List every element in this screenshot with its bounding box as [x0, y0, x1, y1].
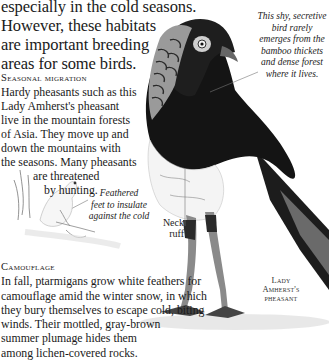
intro-line: especially in the cold seasons. — [1, 0, 191, 16]
body-line: among lichen-covered rocks. — [1, 346, 206, 360]
label-line: Neck — [152, 217, 184, 228]
body-line: are threatened — [1, 169, 166, 183]
caption-feathered-feet: Feathered feet to insulate against the c… — [86, 188, 152, 223]
body-line: summer plumage hides them — [1, 331, 206, 345]
body-line: In fall, ptarmigans grow white feathers … — [1, 274, 206, 288]
body-line: the seasons. Many pheasants — [1, 155, 166, 169]
caption-line: emerges from the — [252, 34, 329, 46]
label-line: pheasant — [254, 294, 308, 303]
caption-line: against the cold — [86, 211, 152, 223]
caption-line: Feathered — [86, 188, 152, 200]
caption-line: feet to insulate — [86, 200, 152, 212]
body-line: live in the mountain forests — [1, 113, 166, 127]
intro-paragraph: especially in the cold seasons. However,… — [1, 0, 191, 73]
camouflage-section: Camouflage In fall, ptarmigans grow whit… — [1, 260, 206, 360]
body-line: of Asia. They move up and — [1, 127, 166, 141]
body-line: they bury themselves to escape cold, bit… — [1, 303, 206, 317]
body-line: camouflage amid the winter snow, in whic… — [1, 289, 206, 303]
caption-line: bird rarely — [252, 23, 329, 35]
caption-line: This shy, secretive — [252, 11, 329, 23]
caption-shy-bird: This shy, secretive bird rarely emerges … — [252, 11, 329, 80]
label-neck-ruff: Neck ruff — [152, 217, 184, 239]
caption-line: and dense forest — [252, 57, 329, 69]
intro-line: are important breeding — [1, 35, 191, 54]
body-line: down the mountains with — [1, 141, 166, 155]
body-line: winds. Their mottled, gray-brown — [1, 317, 206, 331]
intro-line: However, these habitats — [1, 16, 191, 35]
body-line: Hardy pheasants such as this — [1, 85, 166, 99]
section-heading: Seasonal migration — [1, 71, 166, 85]
seasonal-migration-section: Seasonal migration Hardy pheasants such … — [1, 71, 166, 197]
caption-line: bamboo thickets — [252, 46, 329, 58]
section-heading: Camouflage — [1, 260, 206, 274]
label-species: Lady Amherst's pheasant — [254, 276, 308, 303]
label-line: ruff — [152, 228, 184, 239]
body-line: Lady Amherst's pheasant — [1, 99, 166, 113]
caption-line: where it lives. — [252, 69, 329, 81]
